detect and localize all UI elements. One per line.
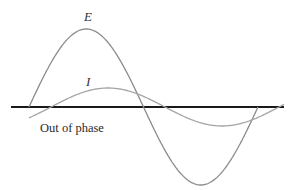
phase-diagram xyxy=(0,0,298,190)
voltage-label-e: E xyxy=(84,10,92,23)
current-label-i: I xyxy=(86,75,90,88)
out-of-phase-caption: Out of phase xyxy=(40,122,104,135)
